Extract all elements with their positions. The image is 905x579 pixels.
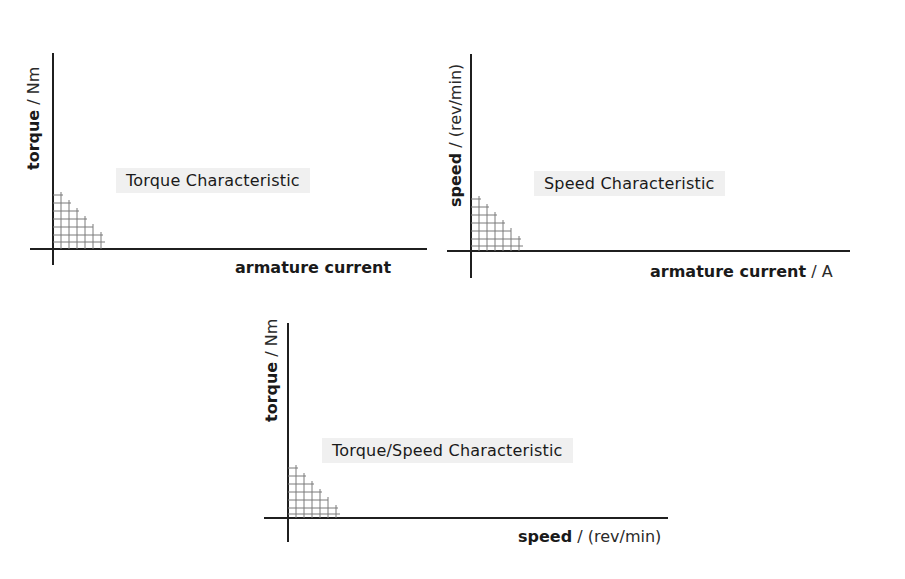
chart-title: Torque/Speed Characteristic bbox=[322, 438, 573, 463]
x-axis-label: armature current bbox=[235, 258, 391, 277]
x-axis-label: speed / (rev/min) bbox=[518, 527, 661, 546]
x-axis-name: speed bbox=[518, 527, 572, 546]
y-axis-name: torque bbox=[24, 110, 43, 170]
hatched-grid-region bbox=[288, 465, 340, 518]
y-axis-name: speed bbox=[446, 153, 465, 207]
x-axis-unit: / (rev/min) bbox=[572, 527, 661, 546]
chart-title: Speed Characteristic bbox=[534, 171, 725, 196]
chart-title: Torque Characteristic bbox=[116, 168, 310, 193]
y-axis-label: speed / (rev/min) bbox=[446, 64, 465, 207]
y-axis-unit: / Nm bbox=[24, 67, 43, 110]
y-axis-unit: / (rev/min) bbox=[446, 64, 465, 153]
y-axis-label: torque / Nm bbox=[24, 67, 43, 170]
x-axis-name: armature current bbox=[235, 258, 391, 277]
x-axis-label: armature current / A bbox=[650, 262, 833, 281]
x-axis-unit: / A bbox=[806, 262, 833, 281]
x-axis-name: armature current bbox=[650, 262, 806, 281]
hatched-grid-region bbox=[53, 192, 105, 249]
y-axis-label: torque / Nm bbox=[262, 319, 281, 422]
y-axis-name: torque bbox=[262, 362, 281, 422]
y-axis-unit: / Nm bbox=[262, 319, 281, 362]
hatched-grid-region bbox=[471, 196, 523, 251]
